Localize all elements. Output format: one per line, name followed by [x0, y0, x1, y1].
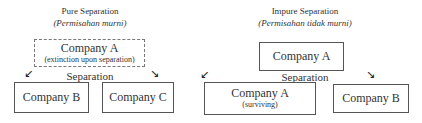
pure-subtitle-text: (Permisahan murni)	[53, 18, 126, 28]
pure-child-name: Company C	[109, 91, 167, 104]
arrow-down-right-icon: ↘	[366, 69, 375, 80]
impure-child-box-b: Company B	[333, 84, 409, 113]
impure-subtitle: (Permisahan tidak murni)	[240, 18, 370, 29]
pure-child-box-b: Company B	[14, 82, 89, 113]
impure-parent-box: Company A	[259, 42, 344, 71]
impure-child-note: (surviving)	[242, 100, 278, 110]
impure-child-box-a-surviving: Company A (surviving)	[204, 82, 316, 115]
arrow-down-left-icon: ↙	[24, 68, 33, 79]
pure-child-box-c: Company C	[102, 82, 174, 113]
impure-child-name: Company B	[342, 92, 400, 105]
impure-child-name: Company A	[231, 87, 289, 100]
impure-parent-name: Company A	[273, 50, 331, 63]
impure-subtitle-text: (Permisahan tidak murni)	[258, 18, 352, 28]
pure-title: Pure Separation	[40, 6, 140, 17]
impure-title: Impure Separation	[250, 6, 360, 17]
pure-separation-label: Separation	[50, 70, 130, 82]
arrow-down-right-icon: ↘	[150, 68, 159, 79]
pure-parent-name: Company A	[61, 42, 119, 55]
pure-subtitle: (Permisahan murni)	[30, 18, 150, 29]
pure-parent-note: (extinction upon separation)	[44, 55, 134, 65]
arrow-down-left-icon: ↙	[200, 69, 209, 80]
pure-child-name: Company B	[23, 91, 81, 104]
pure-parent-box: Company A (extinction upon separation)	[34, 39, 145, 67]
